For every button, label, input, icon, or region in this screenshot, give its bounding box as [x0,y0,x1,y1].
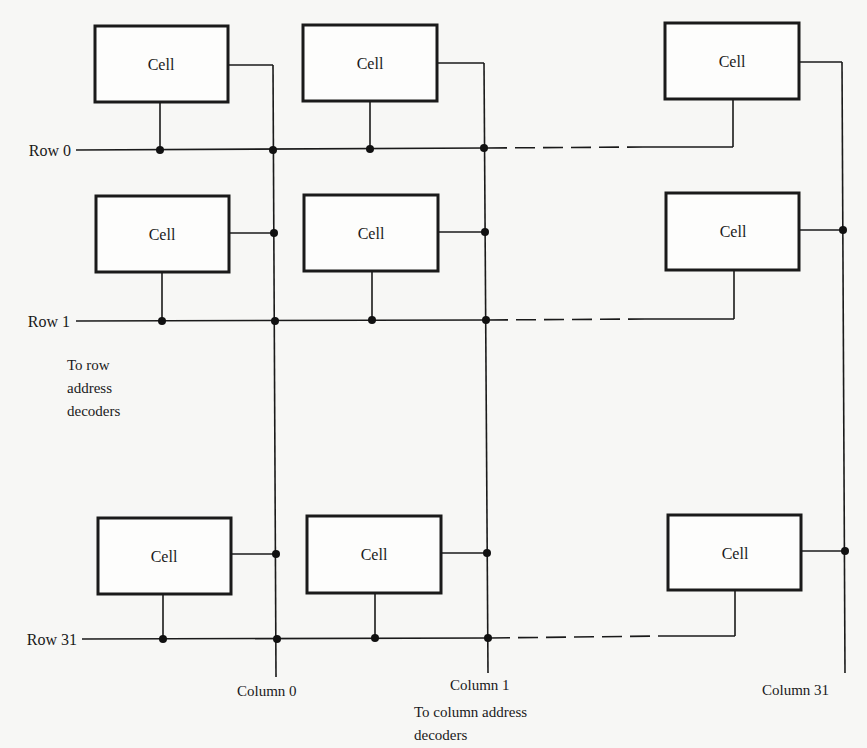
row-decoder-note-line-3: decoders [67,403,120,419]
row-0 [76,99,733,150]
svg-text:Cell: Cell [151,548,178,565]
row-decoder-note-line-1: To row [67,357,110,373]
cell-r31-c31: Cell [668,515,845,590]
column-0-line [273,65,276,677]
memory-cell-array-diagram: Cell Cell Cell Cell Cell Cell Cell [0,0,867,748]
cell-r1-c31: Cell [666,193,843,270]
row-1 [76,270,734,321]
svg-text:Cell: Cell [720,223,747,240]
svg-text:Cell: Cell [722,545,749,562]
cell-r1-c0: Cell [96,196,274,321]
cell-r0-c1: Cell [303,25,484,149]
svg-text:Cell: Cell [357,55,384,72]
column-31-label: Column 31 [762,682,829,698]
column-decoder-note-line-1: To column address [414,704,527,720]
cell-r0-c31: Cell [665,23,842,99]
row-31-label: Row 31 [27,631,77,648]
column-31-line [842,62,845,673]
cell-r31-c1: Cell [307,516,487,638]
svg-text:Cell: Cell [149,226,176,243]
cell-r0-c0: Cell [95,26,273,150]
svg-text:Cell: Cell [719,53,746,70]
row-0-label: Row 0 [29,142,71,159]
column-decoder-note-line-2: decoders [414,727,467,743]
column-1-line [484,63,488,673]
row-31 [82,590,735,639]
svg-text:Cell: Cell [148,56,175,73]
row-1-label: Row 1 [28,313,70,330]
column-1-label: Column 1 [450,677,510,693]
row-decoder-note-line-2: address [67,380,112,396]
cell-r31-c0: Cell [98,518,276,639]
cell-r1-c1: Cell [304,195,485,320]
column-0-label: Column 0 [237,683,297,699]
svg-text:Cell: Cell [358,225,385,242]
svg-text:Cell: Cell [361,546,388,563]
